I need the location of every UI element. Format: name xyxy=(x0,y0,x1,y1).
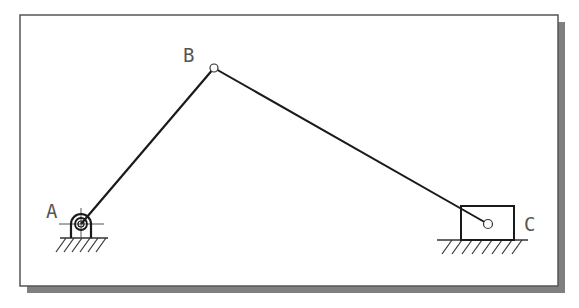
label-a: A xyxy=(46,200,58,222)
slider-crank-diagram: A B C xyxy=(0,0,579,308)
pin-c xyxy=(484,220,493,229)
label-c: C xyxy=(524,213,535,235)
label-b: B xyxy=(183,44,194,66)
pin-b xyxy=(210,64,218,72)
